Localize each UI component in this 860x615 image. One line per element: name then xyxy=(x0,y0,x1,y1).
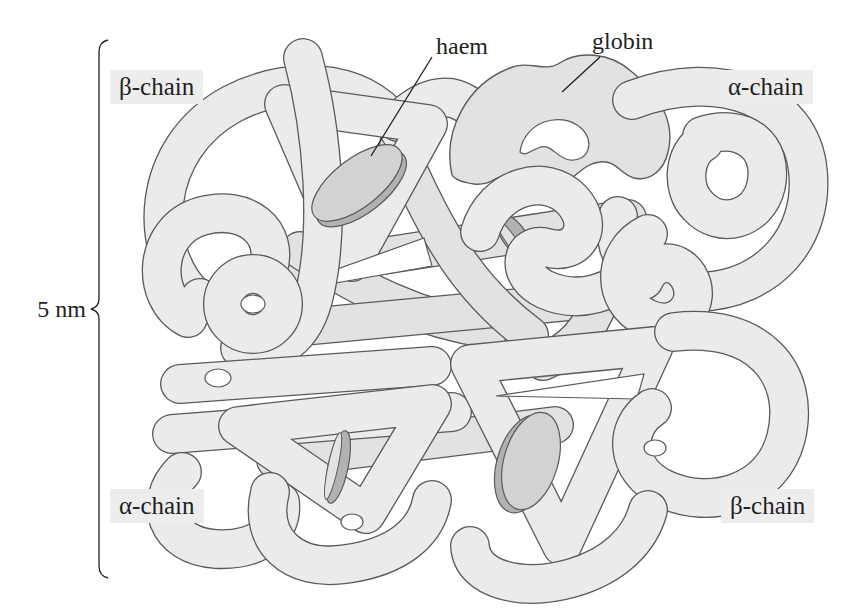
tube-loop-hole xyxy=(341,514,363,530)
haemoglobin-diagram: β-chain α-chain α-chain β-chain haem glo… xyxy=(0,0,860,615)
tube-loop-hole xyxy=(241,295,265,313)
scale-bracket xyxy=(91,40,108,578)
tube-loop-hole xyxy=(644,440,666,456)
globin-label: globin xyxy=(592,28,653,54)
haem-label: haem xyxy=(436,33,488,59)
chain-label-top-left: β-chain xyxy=(110,70,203,104)
chain-label-bottom-left: α-chain xyxy=(110,489,204,523)
scale-label: 5 nm xyxy=(28,296,86,322)
chain-label-bottom-right: β-chain xyxy=(721,489,814,523)
tube-loop-hole xyxy=(205,369,231,387)
chain-label-top-right: α-chain xyxy=(719,70,813,104)
